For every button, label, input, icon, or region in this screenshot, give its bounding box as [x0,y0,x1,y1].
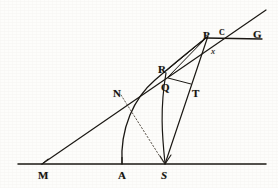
geometry-figure: MASNRQTPCGx [0,0,278,188]
line-M-to-upper-right [42,10,266,164]
line-S-through-T-to-P [165,36,208,164]
point-label-p: P [203,30,210,41]
point-label-g: G [253,29,262,40]
point-label-r: R [158,64,166,75]
segment-Q-to-T [168,78,191,84]
segment-R-to-P [166,37,207,71]
point-label-s: S [161,170,167,181]
point-label-m: M [38,170,49,181]
point-label-a: A [118,170,126,181]
point-label-x: x [211,47,215,56]
point-label-q: Q [161,82,170,93]
dotted-line-N-to-S [121,95,164,163]
point-label-t: T [192,88,200,99]
point-label-n: N [113,88,121,99]
point-label-c: C [219,29,225,37]
figure-canvas [0,0,278,188]
